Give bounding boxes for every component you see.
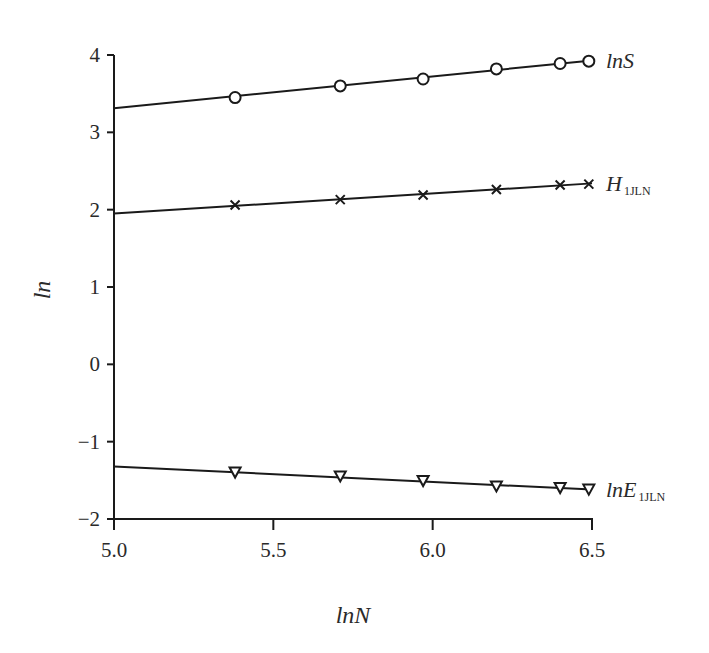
y-tick-label: 1: [90, 275, 101, 299]
triangle-marker: [491, 482, 502, 492]
triangle-marker: [418, 476, 429, 486]
y-tick-label: 4: [90, 43, 101, 67]
circle-marker: [555, 58, 566, 69]
x-axis-title: lnN: [336, 602, 373, 628]
triangle-marker: [555, 483, 566, 493]
data-markers: [230, 56, 595, 495]
fit-line-lnE_1JLN: [114, 466, 592, 489]
circle-marker: [418, 73, 429, 84]
x-tick-label: 6.5: [579, 538, 605, 562]
y-tick-label: 2: [90, 198, 101, 222]
x-tick-label: 6.0: [420, 538, 446, 562]
fit-line-H_1JLN: [114, 183, 592, 213]
y-tick-label: −1: [78, 430, 100, 454]
series-label-lnS: lnS: [606, 48, 634, 73]
series-labels: lnSH1JLNlnE1JLN: [605, 48, 666, 503]
axes: 43210−1−25.05.56.06.5lnNln: [29, 43, 605, 628]
y-tick-label: 3: [90, 120, 101, 144]
y-axis-title: ln: [29, 281, 55, 300]
triangle-marker: [583, 485, 594, 495]
fit-lines: [114, 60, 592, 489]
series-label-H_1JLN: H1JLN: [605, 171, 651, 198]
y-tick-label: −2: [78, 507, 100, 531]
y-tick-label: 0: [90, 352, 101, 376]
x-tick-label: 5.5: [260, 538, 286, 562]
triangle-marker: [335, 471, 346, 481]
x-tick-label: 5.0: [101, 538, 127, 562]
fit-line-lnS: [114, 60, 592, 108]
triangle-marker: [230, 468, 241, 478]
chart: 43210−1−25.05.56.06.5lnNln lnSH1JLNlnE1J…: [0, 0, 709, 653]
circle-marker: [491, 63, 502, 74]
series-label-lnE_1JLN: lnE1JLN: [606, 477, 666, 504]
circle-marker: [583, 56, 594, 67]
circle-marker: [230, 92, 241, 103]
circle-marker: [335, 80, 346, 91]
